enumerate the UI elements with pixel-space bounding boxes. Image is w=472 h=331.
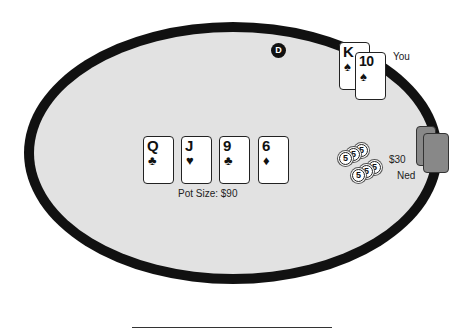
card-rank: K [343,44,354,59]
community-card-1: Q ♣ [143,136,174,184]
diamond-icon: ♦ [263,154,270,167]
card-rank: 6 [262,138,270,153]
ned-bet-amount: $30 [389,154,406,165]
card-rank: Q [147,138,159,153]
player-name-you: You [393,51,410,62]
club-icon: ♣ [224,154,233,167]
pot-size: Pot Size: $90 [178,188,237,199]
hole-card-2: 10 ♠ [355,52,386,100]
card-rank: J [185,138,193,153]
spade-icon: ♠ [360,70,367,83]
divider-line [132,327,332,328]
community-card-3: 9 ♣ [219,136,250,184]
community-card-2: J ♥ [181,136,212,184]
dealer-button: D [271,43,286,58]
community-card-4: 6 ♦ [258,136,289,184]
chip-icon: 5 [352,169,365,182]
card-rank: 10 [359,54,374,69]
spade-icon: ♠ [344,60,351,73]
club-icon: ♣ [148,154,157,167]
player-name-ned: Ned [397,170,415,181]
heart-icon: ♥ [186,154,194,167]
chip-icon: 5 [339,152,352,165]
card-rank: 9 [223,138,231,153]
ned-facedown-card-2 [423,133,449,173]
